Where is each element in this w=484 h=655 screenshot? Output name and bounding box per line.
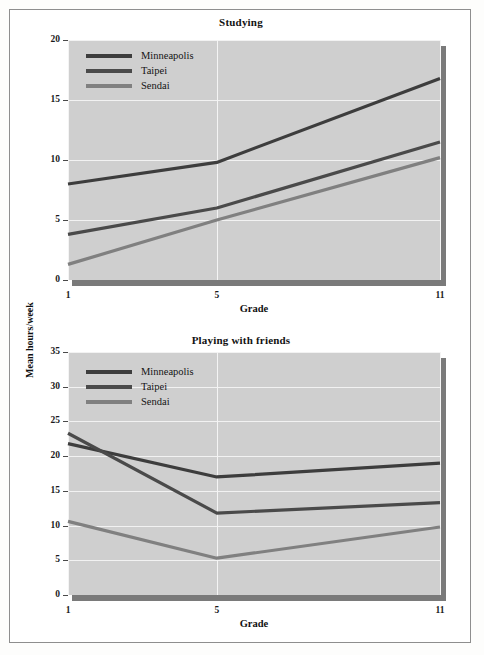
y-tick-label: 20 [32,34,60,44]
legend-item-taipei[interactable]: Taipei [86,63,194,78]
y-tick-mark [63,160,68,161]
legend-item-minneapolis[interactable]: Minneapolis [86,364,194,379]
y-tick-mark [63,100,68,101]
legend-swatch-minneapolis [86,370,132,374]
legend-item-sendai[interactable]: Sendai [86,394,194,409]
legend-item-sendai[interactable]: Sendai [86,78,194,93]
legend-playing: MinneapolisTaipeiSendai [86,364,194,409]
legend-label: Sendai [141,80,170,91]
y-tick-mark [63,280,68,281]
y-tick-mark [63,595,68,596]
y-tick-label: 5 [32,214,60,224]
chart-panel-playing: Playing with friends MinneapolisTaipeiSe… [18,334,464,634]
x-tick-label: 11 [420,290,460,300]
legend-item-minneapolis[interactable]: Minneapolis [86,48,194,63]
series-line-taipei [68,142,440,234]
y-tick-mark [63,40,68,41]
y-tick-label: 20 [32,450,60,460]
y-tick-mark [63,220,68,221]
legend-label: Minneapolis [141,50,194,61]
y-tick-mark [63,456,68,457]
x-axis-label-studying: Grade [68,303,440,314]
y-tick-label: 10 [32,154,60,164]
y-tick-label: 25 [32,415,60,425]
x-tick-label: 1 [48,605,88,615]
legend-label: Taipei [141,65,167,76]
legend-item-taipei[interactable]: Taipei [86,379,194,394]
chart-panel-studying: Studying MinneapolisTaipeiSendai 0510152… [18,16,464,321]
legend-label: Sendai [141,396,170,407]
y-tick-label: 0 [32,274,60,284]
x-axis-label-playing: Grade [68,618,440,629]
y-tick-label: 30 [32,381,60,391]
x-tick-label: 1 [48,290,88,300]
legend-swatch-minneapolis [86,54,132,58]
legend-studying: MinneapolisTaipeiSendai [86,48,194,93]
y-tick-mark [63,387,68,388]
y-tick-mark [63,421,68,422]
series-line-minneapolis [68,444,440,477]
series-line-minneapolis [68,78,440,184]
series-line-sendai [68,158,440,265]
legend-swatch-sendai [86,84,132,88]
y-tick-mark [63,491,68,492]
y-tick-label: 0 [32,589,60,599]
y-tick-label: 10 [32,520,60,530]
y-tick-mark [63,526,68,527]
y-tick-mark [63,352,68,353]
series-line-sendai [68,521,440,558]
legend-label: Minneapolis [141,366,194,377]
x-tick-label: 5 [197,290,237,300]
legend-label: Taipei [141,381,167,392]
y-tick-label: 15 [32,94,60,104]
legend-swatch-taipei [86,385,132,389]
legend-swatch-taipei [86,69,132,73]
y-tick-label: 35 [32,346,60,356]
y-axis-label: Mean hours/week [24,302,35,378]
legend-swatch-sendai [86,400,132,404]
figure-canvas: Studying MinneapolisTaipeiSendai 0510152… [0,0,484,655]
x-tick-label: 11 [420,605,460,615]
y-tick-label: 15 [32,485,60,495]
y-tick-mark [63,560,68,561]
x-tick-label: 5 [197,605,237,615]
y-tick-label: 5 [32,554,60,564]
